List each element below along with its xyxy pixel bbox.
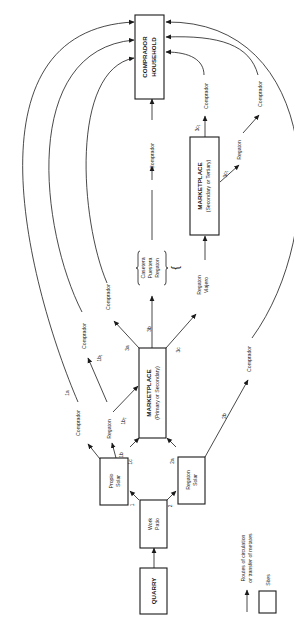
route-label-1c: 1c <box>128 459 133 465</box>
quarry-label: QUARRY <box>150 577 157 604</box>
brace-label-puestera: Puestera <box>147 258 153 279</box>
curve-3c2 <box>166 37 258 75</box>
curve-3c1 <box>166 52 204 75</box>
regaton-viajero-label-1: Regaton <box>196 275 202 295</box>
route-1c <box>130 438 139 447</box>
route-3c-arrow <box>166 314 196 348</box>
brace-right <box>164 251 168 285</box>
route-label-2a: 2a <box>170 458 175 464</box>
marketplace-primary-label-1: MARKETPLACE <box>145 369 152 416</box>
propio-solar-box <box>100 458 128 505</box>
route-3a-arrow <box>114 321 139 348</box>
curve-2b <box>166 22 294 338</box>
brace-bottom: { <box>169 266 181 270</box>
route-2 <box>167 491 176 500</box>
agent-comprador-1b1: Comprador <box>81 323 87 349</box>
route-label-1b: 1b <box>119 452 124 458</box>
agent-comprador-3a: Comprador <box>105 284 111 310</box>
legend-sites-box-icon <box>259 591 276 613</box>
regaton-viajero-label-2: Viajero <box>203 277 209 293</box>
route-1 <box>130 491 139 500</box>
route-label-3c2: 3c₂ <box>223 170 228 177</box>
route-label-1a: 1a <box>65 390 70 396</box>
legend-arrow-label-1: Routes of circulation <box>240 534 246 581</box>
agent-comprador-1a: Comprador <box>75 410 81 436</box>
route-label-1b2: 1b₂ <box>121 417 126 424</box>
agent-regaton-3c2: Regaton <box>236 140 242 160</box>
agent-comprador-3c2: Comprador <box>257 81 263 107</box>
legend: Routes of circulation or transfer of met… <box>240 533 276 613</box>
route-1b2-arrow <box>113 386 138 412</box>
legend-arrow-label-2: or transfer of metates <box>247 533 253 583</box>
route-label-2b: 2b <box>222 413 227 419</box>
route-1b1-arrow <box>88 358 107 402</box>
work-patio-label-1: Work <box>147 518 153 530</box>
legend-sites-label: Sites <box>265 574 271 586</box>
route-label-1b1: 1b₁ <box>97 354 102 361</box>
route-label-1: 1 <box>130 503 135 506</box>
comprador-household-label-1: COMPRADOR <box>141 36 148 78</box>
route-2a <box>167 438 176 447</box>
marketplace-primary-label-2: (Primary or Secondary) <box>154 366 160 420</box>
marketplace-secondary-label-2: (Secondary or Tertiary) <box>205 159 211 212</box>
route-regaton-to-comprador <box>243 115 259 133</box>
agent-comprador-2b: Comprador <box>246 346 252 372</box>
work-patio-label-2: Patio <box>154 518 160 530</box>
agent-comprador-center: Comprador <box>149 143 155 169</box>
curve-3a <box>86 58 134 283</box>
brace-label-casetera: Casetera <box>140 257 146 278</box>
route-label-3c1: 3c₁ <box>195 124 200 131</box>
route-1a-arrow <box>88 444 100 459</box>
route-label-3b: 3b <box>147 326 152 332</box>
curve-1a <box>23 22 134 402</box>
marketplace-primary-box <box>139 348 166 438</box>
route-1b-arrow <box>112 443 116 458</box>
agent-regaton-1b: Regaton <box>106 419 112 439</box>
regaton-solar-label-1: Regaton <box>185 470 191 490</box>
route-label-3c: 3c <box>176 347 181 353</box>
propio-solar-label-1: Propio <box>108 473 114 488</box>
propio-solar-label-2: Solar <box>115 475 121 487</box>
marketplace-secondary-label-1: MARKETPLACE <box>196 162 203 209</box>
comprador-household-label-2: HOUSEHOLD <box>150 37 157 77</box>
agent-comprador-3c1: Comprador <box>203 83 209 109</box>
metate-circulation-diagram: COMPRADOR HOUSEHOLD MARKETPLACE (Seconda… <box>0 0 294 638</box>
regaton-solar-label-2: Solar <box>192 474 198 486</box>
route-label-2: 2 <box>168 504 173 507</box>
route-label-3a: 3a <box>125 345 130 351</box>
curve-1b1 <box>49 40 134 312</box>
brace-label-regaton: Regaton <box>154 258 160 278</box>
